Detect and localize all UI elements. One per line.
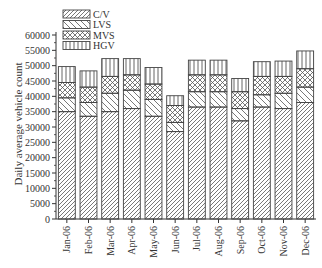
legend-label: C/V bbox=[93, 9, 110, 20]
segment-C/V bbox=[80, 116, 97, 219]
segment-LVS bbox=[145, 99, 162, 116]
segment-MVS bbox=[275, 76, 292, 93]
segment-MVS bbox=[210, 75, 227, 92]
segment-C/V bbox=[188, 107, 205, 219]
segment-MVS bbox=[188, 75, 205, 92]
segment-MVS bbox=[167, 106, 184, 123]
x-tick-label: Feb-06 bbox=[83, 226, 94, 254]
segment-LVS bbox=[297, 87, 314, 102]
bar-Aug-06 bbox=[210, 60, 227, 219]
bar-Dec-06 bbox=[297, 51, 314, 219]
segment-MVS bbox=[297, 69, 314, 87]
segment-LVS bbox=[275, 93, 292, 108]
bar-Jul-06 bbox=[188, 60, 205, 219]
segment-C/V bbox=[253, 107, 270, 219]
bar-Jan-06 bbox=[58, 67, 75, 219]
segment-MVS bbox=[145, 84, 162, 99]
segment-HGV bbox=[167, 96, 184, 106]
x-tick-label: Dec-06 bbox=[300, 226, 311, 255]
segment-LVS bbox=[123, 90, 140, 108]
segment-C/V bbox=[167, 132, 184, 219]
bar-Mar-06 bbox=[102, 59, 119, 219]
x-tick-label: Nov-06 bbox=[278, 226, 289, 257]
segment-HGV bbox=[297, 51, 314, 69]
segment-MVS bbox=[253, 76, 270, 94]
bar-Oct-06 bbox=[253, 62, 270, 219]
x-tick-label: Mar-06 bbox=[105, 226, 116, 256]
bar-Nov-06 bbox=[275, 61, 292, 219]
y-tick-label: 10000 bbox=[25, 183, 50, 194]
bar-Jun-06 bbox=[167, 96, 184, 219]
segment-C/V bbox=[232, 121, 249, 219]
segment-MVS bbox=[123, 75, 140, 90]
y-tick-label: 60000 bbox=[25, 30, 50, 41]
bar-Apr-06 bbox=[123, 59, 140, 219]
x-tick-label: Apr-06 bbox=[126, 226, 137, 255]
segment-C/V bbox=[145, 116, 162, 219]
segment-LVS bbox=[253, 95, 270, 107]
segment-HGV bbox=[58, 67, 75, 83]
segment-LVS bbox=[232, 109, 249, 121]
segment-LVS bbox=[210, 92, 227, 107]
x-tick-label: Jun-06 bbox=[170, 226, 181, 253]
bars bbox=[58, 51, 313, 219]
legend-swatch-HGV bbox=[63, 42, 90, 50]
segment-LVS bbox=[188, 92, 205, 107]
segment-C/V bbox=[102, 112, 119, 219]
segment-HGV bbox=[232, 79, 249, 92]
y-tick-label: 5000 bbox=[30, 198, 50, 209]
segment-HGV bbox=[253, 62, 270, 77]
bar-May-06 bbox=[145, 68, 162, 219]
legend-label: HGV bbox=[93, 40, 115, 51]
segment-MVS bbox=[58, 83, 75, 98]
y-tick-label: 20000 bbox=[25, 152, 50, 163]
legend-label: MVS bbox=[93, 30, 115, 41]
segment-HGV bbox=[145, 68, 162, 85]
y-tick-label: 25000 bbox=[25, 137, 50, 148]
y-tick-label: 0 bbox=[45, 214, 50, 225]
legend: C/VLVSMVSHGV bbox=[63, 9, 115, 52]
segment-LVS bbox=[167, 122, 184, 131]
y-tick-label: 15000 bbox=[25, 168, 50, 179]
segment-LVS bbox=[58, 98, 75, 112]
legend-swatch-MVS bbox=[63, 31, 90, 39]
segment-HGV bbox=[275, 61, 292, 76]
stacked-bar-chart: 0500010000150002000025000300003500040000… bbox=[0, 0, 322, 268]
segment-C/V bbox=[275, 109, 292, 219]
segment-HGV bbox=[102, 59, 119, 77]
segment-HGV bbox=[188, 60, 205, 75]
bar-Feb-06 bbox=[80, 71, 97, 219]
x-tick-label: Jul-06 bbox=[191, 226, 202, 251]
x-tick-label: Jan-06 bbox=[61, 226, 72, 253]
y-tick-label: 45000 bbox=[25, 76, 50, 87]
segment-HGV bbox=[123, 59, 140, 75]
segment-HGV bbox=[210, 60, 227, 75]
bar-Sep-06 bbox=[232, 79, 249, 219]
segment-MVS bbox=[102, 76, 119, 93]
x-tick-label: Aug-06 bbox=[213, 226, 224, 257]
y-tick-label: 30000 bbox=[25, 122, 50, 133]
segment-HGV bbox=[80, 71, 97, 87]
y-tick-label: 35000 bbox=[25, 106, 50, 117]
legend-swatch-C/V bbox=[63, 10, 90, 18]
y-tick-label: 40000 bbox=[25, 91, 50, 102]
segment-MVS bbox=[232, 92, 249, 109]
segment-MVS bbox=[80, 87, 97, 102]
segment-C/V bbox=[123, 109, 140, 219]
segment-LVS bbox=[102, 93, 119, 111]
x-tick-label: Sep-06 bbox=[235, 226, 246, 254]
x-tick-label: May-06 bbox=[148, 226, 159, 258]
x-tick-label: Oct-06 bbox=[256, 226, 267, 254]
legend-swatch-LVS bbox=[63, 21, 90, 29]
segment-C/V bbox=[210, 107, 227, 219]
y-tick-label: 50000 bbox=[25, 60, 50, 71]
segment-C/V bbox=[58, 112, 75, 219]
y-tick-label: 55000 bbox=[25, 45, 50, 56]
segment-LVS bbox=[80, 102, 97, 116]
segment-C/V bbox=[297, 102, 314, 219]
legend-label: LVS bbox=[93, 19, 111, 30]
